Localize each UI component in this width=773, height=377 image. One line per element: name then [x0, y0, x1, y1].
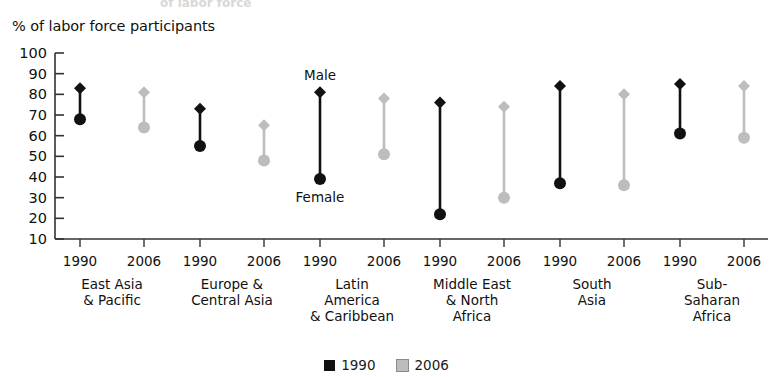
legend-label-1990: 1990: [341, 357, 375, 373]
x-axis-group-label: East Asia & Pacific: [81, 276, 143, 308]
x-axis-group-label: South Asia: [572, 276, 611, 308]
x-tick-year-label: 1990: [663, 253, 697, 269]
legend-swatch-icon-1990: [324, 360, 335, 371]
chart-root: of labor force % of labor force particip…: [0, 0, 773, 377]
annotation-male: Male: [304, 67, 336, 83]
legend-item-2006: 2006: [396, 357, 449, 373]
x-tick-year-label: 2006: [607, 253, 641, 269]
x-tick-year-label: 2006: [487, 253, 521, 269]
chart-legend: 1990 2006: [0, 357, 773, 373]
annotation-female: Female: [296, 189, 345, 205]
x-axis-group-label: Middle East & North Africa: [433, 276, 511, 324]
legend-label-2006: 2006: [415, 357, 449, 373]
x-tick-year-label: 1990: [183, 253, 217, 269]
legend-swatch-icon-2006: [396, 359, 409, 372]
x-tick-year-label: 1990: [303, 253, 337, 269]
x-tick-year-label: 2006: [727, 253, 761, 269]
x-axis-group-label: Sub-Saharan Africa: [682, 276, 743, 324]
x-tick-year-label: 2006: [127, 253, 161, 269]
x-axis-group-label: Latin America & Caribbean: [310, 276, 394, 324]
x-tick-year-label: 1990: [423, 253, 457, 269]
x-tick-year-label: 1990: [543, 253, 577, 269]
legend-item-1990: 1990: [324, 357, 375, 373]
x-tick-year-label: 1990: [63, 253, 97, 269]
x-axis-group-label: Europe & Central Asia: [191, 276, 273, 308]
x-tick-year-label: 2006: [247, 253, 281, 269]
x-axis-labels: 19902006East Asia & Pacific19902006Europ…: [0, 0, 773, 377]
x-tick-year-label: 2006: [367, 253, 401, 269]
